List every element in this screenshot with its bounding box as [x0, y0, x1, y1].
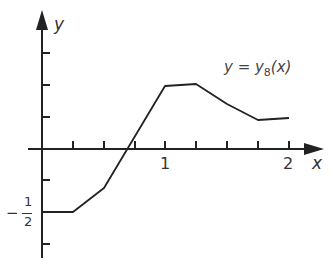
- minus-sign: −: [6, 204, 19, 222]
- x-tick-label-2: 2: [283, 154, 293, 173]
- x-axis-label: x: [312, 153, 322, 173]
- y-tick-label-neg-half: − 1 2: [6, 196, 36, 232]
- fraction-denominator: 2: [24, 214, 32, 229]
- function-annotation: y = y8(x): [224, 58, 291, 79]
- x-tick-label-1: 1: [160, 154, 170, 173]
- y-axis-label: y: [54, 14, 64, 34]
- chart-canvas: [0, 0, 333, 269]
- y-axis-arrow-icon: [36, 10, 48, 30]
- fraction-numerator: 1: [24, 194, 32, 209]
- func-arg: (x): [271, 58, 292, 76]
- x-ticks: [73, 141, 289, 149]
- func-lhs: y = y: [224, 58, 264, 76]
- func-subscript: 8: [264, 66, 271, 79]
